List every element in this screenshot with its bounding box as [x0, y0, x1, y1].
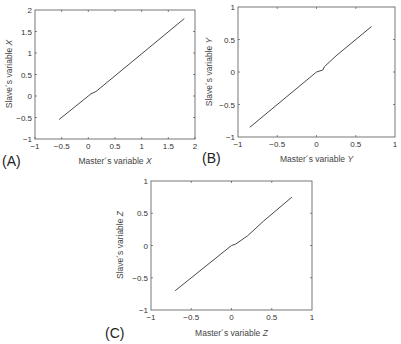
- sync-line-a: [59, 19, 184, 120]
- svg-text:0: 0: [28, 92, 33, 101]
- x-axis-label-c: Master´s variable Z: [195, 328, 269, 338]
- x-axis-label-a: Master´s variable X: [78, 156, 152, 166]
- svg-text:0: 0: [86, 142, 91, 151]
- svg-text:−0.5: −0.5: [183, 313, 199, 322]
- svg-text:−1: −1: [23, 135, 33, 144]
- svg-text:−0.5: −0.5: [132, 274, 148, 283]
- x-axis-label-b: Master´s variable Y: [280, 154, 355, 164]
- svg-text:2: 2: [28, 6, 33, 15]
- panel-label-b: (B): [202, 150, 221, 166]
- svg-text:0: 0: [229, 313, 234, 322]
- y-axis-label-b: Slave´s variable Y: [204, 36, 214, 106]
- panel-label-c: (C): [105, 325, 124, 341]
- y-tick-labels-c: −1 −0.5 0 0.5 1: [132, 177, 148, 315]
- figure: −1 −0.5 0 0.5 1 1.5 2 −1 −0.5 0 0.5 1 1.…: [0, 0, 401, 344]
- svg-text:0.5: 0.5: [266, 313, 278, 322]
- y-tick-labels-a: −1 −0.5 0 0.5 1 1.5 2: [16, 6, 32, 144]
- svg-text:0.5: 0.5: [350, 140, 362, 149]
- y-axis-label-a: Slave´s variable X: [4, 39, 14, 108]
- svg-text:0.5: 0.5: [109, 142, 121, 151]
- sync-line-c: [175, 197, 292, 291]
- svg-text:1: 1: [231, 3, 236, 12]
- svg-text:0.5: 0.5: [21, 71, 33, 80]
- panel-a: −1 −0.5 0 0.5 1 1.5 2 −1 −0.5 0 0.5 1 1.…: [2, 6, 198, 169]
- svg-text:−0.5: −0.5: [219, 101, 235, 110]
- svg-text:0: 0: [144, 242, 149, 251]
- y-axis-label-c: Slave´s variable Z: [115, 210, 125, 279]
- svg-text:−1: −1: [226, 133, 236, 142]
- svg-text:1.5: 1.5: [21, 28, 33, 37]
- svg-text:1: 1: [310, 313, 315, 322]
- svg-text:−0.5: −0.5: [54, 142, 70, 151]
- svg-text:1: 1: [28, 49, 33, 58]
- sync-line-b: [250, 27, 372, 128]
- y-ticks-a: [35, 32, 195, 118]
- svg-text:1: 1: [393, 140, 398, 149]
- svg-text:0.5: 0.5: [137, 209, 149, 218]
- svg-text:1.5: 1.5: [163, 142, 175, 151]
- svg-text:2: 2: [193, 142, 198, 151]
- svg-text:0.5: 0.5: [224, 36, 236, 45]
- panel-c: −1 −0.5 0 0.5 1 −1 −0.5 0 0.5 1 (C) Mast…: [105, 177, 315, 341]
- svg-text:0: 0: [231, 68, 236, 77]
- y-tick-labels-b: −1 −0.5 0 0.5 1: [219, 3, 235, 142]
- svg-text:0: 0: [314, 140, 319, 149]
- x-tick-labels-a: −1 −0.5 0 0.5 1 1.5 2: [30, 142, 197, 151]
- x-tick-labels-c: −1 −0.5 0 0.5 1: [146, 313, 314, 322]
- x-tick-labels-b: −1 −0.5 0 0.5 1: [233, 140, 397, 149]
- svg-text:1: 1: [139, 142, 144, 151]
- svg-text:−1: −1: [139, 306, 149, 315]
- svg-text:1: 1: [144, 177, 149, 186]
- svg-text:−0.5: −0.5: [269, 140, 285, 149]
- panel-b: −1 −0.5 0 0.5 1 −1 −0.5 0 0.5 1 (B) Mast…: [202, 3, 398, 166]
- svg-text:−0.5: −0.5: [16, 114, 32, 123]
- panel-label-a: (A): [2, 153, 21, 169]
